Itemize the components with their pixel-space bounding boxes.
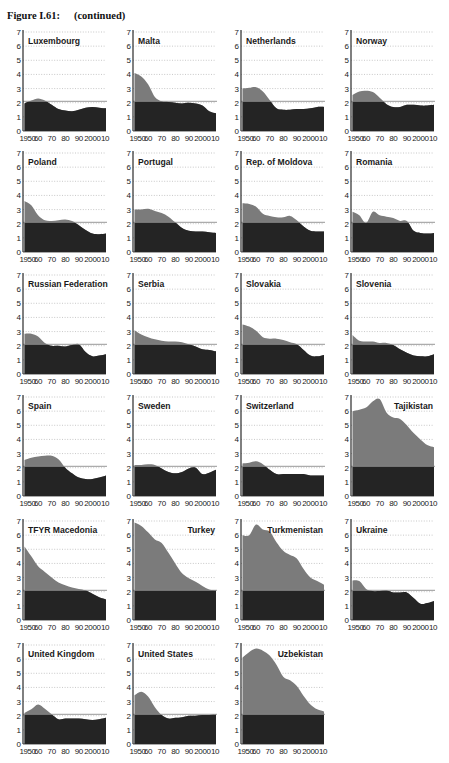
y-tick-label: 6 — [234, 163, 239, 172]
x-tick-label: 10 — [101, 255, 110, 264]
x-tick-label: 80 — [171, 499, 180, 508]
y-tick-label: 6 — [234, 531, 239, 540]
x-tick-label: 80 — [279, 499, 288, 508]
area-below-replacement — [23, 714, 107, 744]
y-tick-label: 2 — [16, 464, 21, 473]
y-tick-label: 4 — [126, 191, 131, 200]
x-tick-label: 60 — [34, 255, 43, 264]
y-tick-label: 1 — [234, 726, 239, 735]
y-tick-label: 5 — [126, 545, 131, 554]
y-tick-label: 1 — [16, 478, 21, 487]
x-tick-label: 2000 — [412, 623, 429, 632]
y-tick-label: 1 — [344, 602, 349, 611]
y-tick-label: 6 — [234, 655, 239, 664]
y-tick-label: 2 — [126, 342, 131, 351]
x-tick-label: 90 — [75, 377, 84, 386]
chart-title: Romania — [356, 157, 393, 167]
chart-panel-turkey: 01234567195060708090200010Turkey — [111, 515, 226, 637]
chart-title: Turkey — [187, 525, 215, 535]
y-tick-label: 4 — [16, 559, 21, 568]
x-tick-label: 10 — [319, 499, 328, 508]
y-tick-label: 5 — [344, 545, 349, 554]
x-tick-label: 10 — [101, 623, 110, 632]
area-below-replacement — [241, 222, 325, 252]
y-tick-label: 1 — [126, 356, 131, 365]
y-tick-label: 2 — [234, 220, 239, 229]
y-tick-label: 5 — [344, 177, 349, 186]
y-tick-label: 4 — [344, 70, 349, 79]
y-tick-label: 6 — [344, 531, 349, 540]
x-tick-label: 10 — [319, 623, 328, 632]
x-tick-label: 90 — [185, 623, 194, 632]
x-tick-label: 80 — [61, 623, 70, 632]
y-tick-label: 7 — [16, 641, 21, 650]
y-tick-label: 6 — [126, 285, 131, 294]
y-tick-label: 7 — [16, 517, 21, 526]
y-tick-label: 7 — [16, 271, 21, 280]
y-tick-label: 2 — [126, 712, 131, 721]
y-tick-label: 1 — [234, 478, 239, 487]
chart-panel-slovakia: 01234567195060708090200010Slovakia — [219, 269, 334, 391]
y-tick-label: 4 — [16, 191, 21, 200]
y-tick-label: 2 — [234, 712, 239, 721]
x-tick-label: 60 — [252, 623, 261, 632]
y-tick-label: 6 — [16, 531, 21, 540]
x-tick-label: 2000 — [412, 255, 429, 264]
x-tick-label: 90 — [293, 134, 302, 143]
x-tick-label: 2000 — [194, 499, 211, 508]
y-tick-label: 7 — [234, 28, 239, 37]
y-tick-label: 5 — [234, 421, 239, 430]
y-tick-label: 1 — [126, 726, 131, 735]
y-tick-label: 3 — [126, 328, 131, 337]
x-tick-label: 2000 — [194, 747, 211, 756]
x-tick-label: 10 — [429, 499, 438, 508]
y-tick-label: 2 — [126, 220, 131, 229]
x-tick-label: 80 — [389, 499, 398, 508]
y-tick-label: 5 — [126, 669, 131, 678]
y-tick-label: 6 — [16, 655, 21, 664]
x-tick-label: 80 — [389, 623, 398, 632]
y-tick-label: 1 — [126, 602, 131, 611]
area-below-replacement — [241, 101, 325, 131]
y-tick-label: 3 — [126, 85, 131, 94]
x-tick-label: 10 — [319, 747, 328, 756]
y-tick-label: 4 — [16, 435, 21, 444]
y-tick-label: 6 — [126, 407, 131, 416]
chart-title: Serbia — [138, 279, 164, 289]
y-tick-label: 4 — [344, 313, 349, 322]
x-tick-label: 70 — [376, 499, 385, 508]
x-tick-label: 80 — [279, 134, 288, 143]
x-tick-label: 80 — [171, 747, 180, 756]
x-tick-label: 2000 — [302, 377, 319, 386]
y-tick-label: 2 — [234, 99, 239, 108]
chart-title: Russian Federation — [28, 279, 108, 289]
x-tick-label: 80 — [61, 747, 70, 756]
y-tick-label: 4 — [126, 70, 131, 79]
y-tick-label: 6 — [126, 42, 131, 51]
chart-panel-tajikistan: 01234567195060708090200010Tajikistan — [329, 391, 444, 513]
chart-title: Netherlands — [246, 36, 296, 46]
chart-title: Ukraine — [356, 525, 388, 535]
x-tick-label: 90 — [293, 499, 302, 508]
y-tick-label: 3 — [234, 206, 239, 215]
y-tick-label: 7 — [234, 517, 239, 526]
y-tick-label: 7 — [126, 271, 131, 280]
x-tick-label: 90 — [293, 747, 302, 756]
chart-panel-united-states: 01234567195060708090200010United States — [111, 639, 226, 761]
y-tick-label: 6 — [344, 42, 349, 51]
chart-panel-switzerland: 01234567195060708090200010Switzerland — [219, 391, 334, 513]
y-tick-label: 1 — [234, 113, 239, 122]
x-tick-label: 10 — [101, 499, 110, 508]
x-tick-label: 10 — [429, 255, 438, 264]
x-tick-label: 90 — [75, 747, 84, 756]
y-tick-label: 3 — [344, 328, 349, 337]
x-tick-label: 10 — [101, 747, 110, 756]
x-tick-label: 10 — [429, 134, 438, 143]
y-tick-label: 4 — [126, 435, 131, 444]
x-tick-label: 80 — [389, 255, 398, 264]
x-tick-label: 80 — [389, 377, 398, 386]
chart-panel-uzbekistan: 01234567195060708090200010Uzbekistan — [219, 639, 334, 761]
y-tick-label: 2 — [126, 588, 131, 597]
y-tick-label: 1 — [234, 234, 239, 243]
x-tick-label: 60 — [362, 499, 371, 508]
